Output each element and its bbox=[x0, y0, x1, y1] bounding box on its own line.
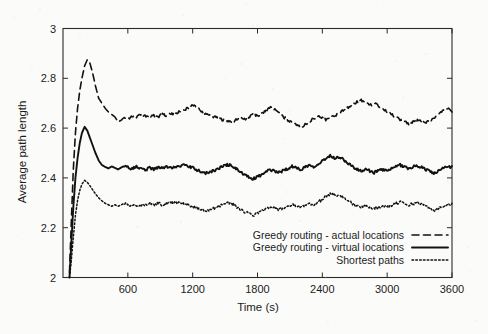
scan-speckle bbox=[441, 284, 443, 286]
scan-speckle bbox=[245, 3, 247, 5]
scan-speckle bbox=[275, 167, 276, 168]
chart-plot: 6001200180024003000360022.22.42.62.83 Gr… bbox=[0, 0, 488, 334]
scan-speckle bbox=[39, 8, 41, 10]
scan-speckle bbox=[114, 199, 116, 201]
scan-speckle bbox=[361, 10, 362, 11]
scan-speckle bbox=[272, 88, 274, 90]
x-tick-label: 3600 bbox=[440, 283, 464, 295]
x-tick-label: 1200 bbox=[180, 283, 204, 295]
scan-speckle bbox=[252, 25, 254, 27]
y-tick-label: 2.6 bbox=[41, 122, 56, 134]
x-tick-label: 1800 bbox=[245, 283, 269, 295]
y-tick-label: 2.2 bbox=[41, 222, 56, 234]
legend-label: Shortest paths bbox=[336, 254, 404, 266]
scan-speckle bbox=[286, 191, 288, 193]
legend-layer: Greedy routing - actual locationsGreedy … bbox=[253, 229, 448, 266]
scan-speckle bbox=[482, 19, 483, 20]
x-tick-label: 2400 bbox=[310, 283, 334, 295]
scan-speckle bbox=[264, 305, 266, 307]
scan-speckle bbox=[87, 301, 88, 302]
scan-speckle bbox=[363, 243, 365, 245]
scan-speckle bbox=[301, 235, 302, 236]
scan-speckle bbox=[70, 73, 72, 75]
figure-canvas: 6001200180024003000360022.22.42.62.83 Gr… bbox=[0, 0, 488, 334]
scan-speckle bbox=[34, 36, 36, 38]
y-tick-label: 2 bbox=[50, 272, 56, 284]
scan-speckle bbox=[259, 215, 261, 217]
scan-speckle bbox=[395, 60, 397, 62]
scan-speckle bbox=[31, 69, 33, 71]
scan-speckle bbox=[327, 321, 328, 322]
x-tick-label: 3000 bbox=[375, 283, 399, 295]
y-tick-label: 3 bbox=[50, 23, 56, 35]
scan-speckle bbox=[355, 241, 356, 242]
scan-speckle bbox=[389, 307, 391, 309]
y-axis-title: Average path length bbox=[16, 101, 28, 204]
scan-speckle bbox=[240, 63, 241, 64]
scan-speckle bbox=[136, 226, 138, 228]
y-tick-label: 2.4 bbox=[41, 172, 56, 184]
x-tick-label: 600 bbox=[119, 283, 137, 295]
y-tick-label: 2.8 bbox=[41, 72, 56, 84]
scan-speckle bbox=[359, 167, 361, 169]
legend-label: Greedy routing - virtual locations bbox=[253, 241, 404, 253]
scan-speckle bbox=[425, 68, 426, 69]
legend-label: Greedy routing - actual locations bbox=[253, 229, 404, 241]
scan-speckle bbox=[425, 53, 427, 55]
x-axis-title: Time (s) bbox=[237, 301, 279, 313]
scan-speckle bbox=[180, 221, 182, 223]
